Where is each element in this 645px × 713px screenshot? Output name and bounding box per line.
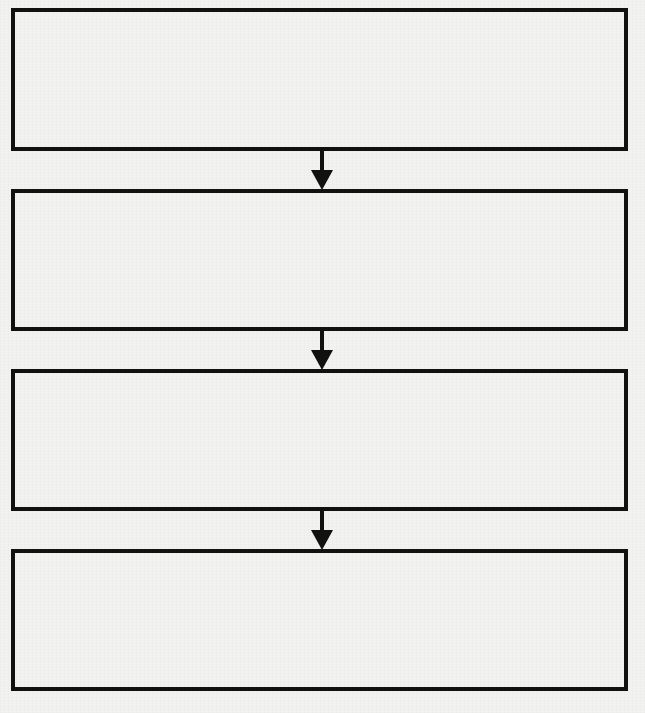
- flow-box-step-2-text[interactable]: [15, 193, 624, 327]
- flow-box-step-1-text[interactable]: [15, 12, 624, 147]
- flow-box-step-1[interactable]: [11, 8, 628, 151]
- flow-box-step-4-text[interactable]: [15, 553, 624, 687]
- flow-box-step-3-text[interactable]: [15, 373, 624, 507]
- arrow-down-icon: [311, 350, 333, 370]
- arrow-down-icon: [311, 530, 333, 550]
- flow-box-step-4[interactable]: [11, 549, 628, 691]
- flow-box-step-3[interactable]: [11, 369, 628, 511]
- arrow-down-icon: [311, 170, 333, 190]
- flow-box-step-2[interactable]: [11, 189, 628, 331]
